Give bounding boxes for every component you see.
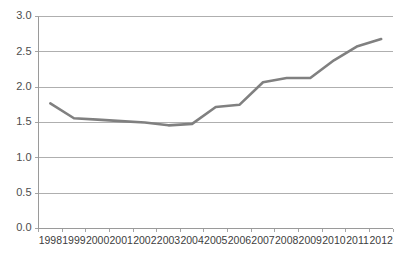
y-axis-tick-label: 1.5 bbox=[16, 115, 31, 127]
x-axis-tick-label: 2009 bbox=[299, 234, 323, 246]
x-axis-tick-label: 2008 bbox=[275, 234, 299, 246]
x-axis-tick-label: 1999 bbox=[62, 234, 86, 246]
x-axis-tick-label: 2011 bbox=[346, 234, 369, 246]
x-axis-tick-label: 2010 bbox=[322, 234, 346, 246]
y-axis-tick-label: 0.5 bbox=[16, 186, 31, 198]
y-axis-tick-label: 2.0 bbox=[16, 80, 31, 92]
line-chart: 0.00.51.01.52.02.53.0 199819992000200120… bbox=[0, 0, 407, 261]
x-axis-tick-label: 2012 bbox=[370, 234, 394, 246]
y-axis-tick-label: 3.0 bbox=[16, 9, 31, 21]
x-axis-tick-label: 2002 bbox=[133, 234, 157, 246]
x-axis-tick-label: 2007 bbox=[251, 234, 275, 246]
chart-canvas: 0.00.51.01.52.02.53.0 199819992000200120… bbox=[0, 0, 407, 261]
gridlines-group bbox=[39, 17, 394, 229]
x-axis-tick-label: 2000 bbox=[86, 234, 110, 246]
x-axis-tick-label: 2005 bbox=[204, 234, 228, 246]
y-axis-tick-label: 1.0 bbox=[16, 151, 31, 163]
x-axis-tick-label: 2003 bbox=[157, 234, 181, 246]
y-axis-tick-label: 2.5 bbox=[16, 45, 31, 57]
tickmarks-group bbox=[35, 17, 393, 233]
y-axis-tick-labels: 0.00.51.01.52.02.53.0 bbox=[16, 9, 31, 233]
x-axis-tick-label: 2006 bbox=[228, 234, 252, 246]
x-axis-tick-label: 2004 bbox=[180, 234, 204, 246]
x-axis-tick-label: 2001 bbox=[110, 234, 134, 246]
y-axis-tick-label: 0.0 bbox=[16, 221, 31, 233]
x-axis-tick-label: 1998 bbox=[39, 234, 63, 246]
x-axis-tick-labels: 1998199920002001200220032004200520062007… bbox=[39, 234, 393, 246]
